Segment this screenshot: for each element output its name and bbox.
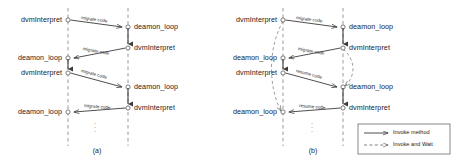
node-label-b-right-0: deamon_loop — [349, 23, 393, 30]
legend-label-invoke-method: Invoke method — [393, 130, 430, 136]
node-label-b-left-2: dvmInterpret — [236, 69, 277, 76]
caption-b: (b) — [309, 147, 318, 154]
wait-arc-b-left — [271, 21, 283, 111]
ellipsis-b-dot-2: . — [311, 128, 313, 132]
node-label-b-left-1: deamon_loop — [233, 54, 277, 61]
node-label-b-right-3: dvmInterpret — [349, 104, 390, 111]
node-label-b-left-0: dvmInterpret — [236, 16, 277, 23]
node-label-b-left-3: deamon_loop — [233, 108, 277, 115]
node-label-b-right-1: dvmInterpret — [349, 44, 390, 51]
legend-label-invoke-and-wait: Invoke and Wait — [393, 142, 433, 148]
wait-arc-b-right — [343, 49, 353, 86]
sequence-diagram-figure: dvmInterpret deamon_loop dvmInterpret de… — [0, 0, 453, 166]
node-label-b-right-2: deamon_loop — [349, 83, 393, 90]
ellipsis-b: . . . — [311, 120, 313, 132]
